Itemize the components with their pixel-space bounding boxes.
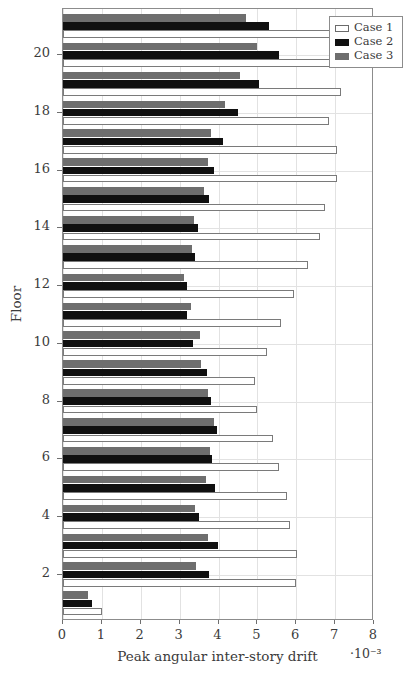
bar-case-3-floor-18 [63, 101, 225, 109]
y-tick-mark [57, 574, 62, 575]
bar-case-1-floor-7 [63, 435, 273, 443]
bar-case-1-floor-14 [63, 233, 320, 241]
bar-case-1-floor-21 [63, 30, 333, 38]
y-tick-mark [57, 343, 62, 344]
y-tick-label: 4 [24, 507, 50, 522]
bar-case-2-floor-9 [63, 369, 207, 377]
bar-case-2-floor-1 [63, 600, 92, 608]
legend-item-case-1: Case 1 [335, 21, 397, 35]
bar-case-2-floor-2 [63, 571, 209, 579]
x-tick-mark [334, 620, 335, 624]
y-tick-mark [57, 227, 62, 228]
y-tick-label: 2 [24, 565, 50, 580]
bar-case-3-floor-11 [63, 303, 191, 311]
x-tick-label: 1 [88, 627, 114, 642]
bar-case-2-floor-7 [63, 426, 217, 434]
y-tick-label: 8 [24, 392, 50, 407]
bar-case-3-floor-19 [63, 72, 240, 80]
bar-case-3-floor-1 [63, 591, 88, 599]
y-tick-label: 12 [24, 276, 50, 291]
chart-page: 0123456782468101214161820 Peak angular i… [0, 0, 410, 676]
bar-case-1-floor-19 [63, 88, 341, 96]
bar-case-1-floor-1 [63, 608, 102, 616]
y-tick-mark [57, 401, 62, 402]
bar-case-3-floor-10 [63, 331, 200, 339]
y-tick-label: 14 [24, 218, 50, 233]
bar-case-1-floor-2 [63, 579, 296, 587]
bar-case-2-floor-20 [63, 51, 279, 59]
bar-case-2-floor-11 [63, 311, 187, 319]
x-tick-label: 7 [321, 627, 347, 642]
bar-case-1-floor-9 [63, 377, 255, 385]
y-tick-label: 6 [24, 449, 50, 464]
bar-case-2-floor-8 [63, 397, 211, 405]
bar-case-3-floor-16 [63, 158, 208, 166]
bar-case-3-floor-12 [63, 274, 184, 282]
x-tick-label: 4 [205, 627, 231, 642]
x-tick-mark [101, 620, 102, 624]
y-tick-label: 20 [24, 45, 50, 60]
y-tick-label: 18 [24, 103, 50, 118]
bar-case-3-floor-9 [63, 360, 201, 368]
bar-case-1-floor-4 [63, 521, 290, 529]
x-tick-mark [295, 620, 296, 624]
x-axis-label: Peak angular inter-story drift [62, 648, 373, 664]
bar-case-1-floor-11 [63, 319, 281, 327]
y-tick-mark [57, 458, 62, 459]
bar-case-3-floor-17 [63, 129, 211, 137]
bar-case-2-floor-19 [63, 80, 259, 88]
bar-case-1-floor-16 [63, 175, 337, 183]
bar-case-3-floor-7 [63, 418, 214, 426]
x-tick-label: 8 [360, 627, 386, 642]
plot-area [62, 8, 373, 620]
case-3-swatch [335, 53, 349, 60]
x-tick-mark [140, 620, 141, 624]
legend-item-case-2: Case 2 [335, 35, 397, 49]
bar-series-container [63, 9, 372, 619]
bar-case-2-floor-15 [63, 195, 209, 203]
bar-case-3-floor-4 [63, 505, 195, 513]
bar-case-1-floor-15 [63, 204, 325, 212]
bar-case-3-floor-21 [63, 14, 246, 22]
bar-case-1-floor-12 [63, 290, 294, 298]
bar-case-2-floor-6 [63, 455, 212, 463]
bar-case-3-floor-2 [63, 562, 196, 570]
case-1-swatch [335, 25, 349, 32]
bar-case-3-floor-8 [63, 389, 208, 397]
x-tick-mark [373, 620, 374, 624]
case-2-swatch [335, 39, 349, 46]
bar-case-1-floor-17 [63, 146, 337, 154]
bar-case-3-floor-15 [63, 187, 204, 195]
bar-case-1-floor-3 [63, 550, 297, 558]
bar-case-2-floor-21 [63, 22, 269, 30]
y-tick-mark [57, 285, 62, 286]
y-tick-mark [57, 170, 62, 171]
x-tick-label: 5 [243, 627, 269, 642]
y-tick-label: 16 [24, 161, 50, 176]
y-tick-mark [57, 112, 62, 113]
x-tick-mark [218, 620, 219, 624]
y-axis-label: Floor [8, 274, 24, 334]
bar-case-3-floor-6 [63, 447, 210, 455]
bar-case-1-floor-5 [63, 492, 287, 500]
bar-case-1-floor-8 [63, 406, 257, 414]
y-tick-mark [57, 54, 62, 55]
bar-case-2-floor-17 [63, 138, 223, 146]
chart-legend: Case 1 Case 2 Case 3 [329, 16, 403, 68]
bar-case-1-floor-13 [63, 261, 308, 269]
bar-case-2-floor-14 [63, 224, 198, 232]
x-tick-label: 2 [127, 627, 153, 642]
x-tick-label: 6 [282, 627, 308, 642]
bar-case-3-floor-13 [63, 245, 192, 253]
x-tick-label: 0 [49, 627, 75, 642]
x-tick-mark [62, 620, 63, 624]
bar-case-2-floor-10 [63, 340, 193, 348]
bar-case-1-floor-20 [63, 59, 339, 67]
bar-case-2-floor-16 [63, 167, 214, 175]
bar-case-1-floor-10 [63, 348, 267, 356]
legend-label-case-1: Case 1 [354, 22, 393, 34]
bar-case-2-floor-5 [63, 484, 215, 492]
y-tick-label: 10 [24, 334, 50, 349]
bar-case-2-floor-13 [63, 253, 195, 261]
legend-label-case-2: Case 2 [354, 36, 393, 48]
